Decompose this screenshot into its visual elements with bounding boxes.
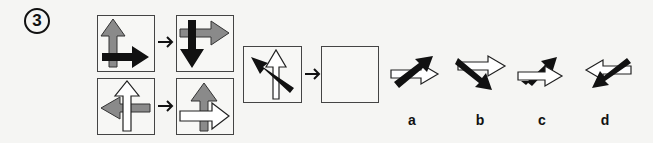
example-1-after-box [176,15,234,72]
option-d-figure[interactable] [578,52,636,94]
option-c-arrows-icon [515,52,573,94]
problem-given-box [243,46,302,103]
option-d-arrows-icon [578,52,636,94]
transform-arrow-icon [157,100,174,112]
option-b-arrows-icon [452,52,510,94]
option-c-figure[interactable] [515,52,573,94]
option-a-arrows-icon [388,52,446,94]
arrows-right-gray-down-black-icon [177,16,232,70]
option-c-label[interactable]: c [532,112,552,128]
example-1-before-box [97,15,155,72]
option-a-label[interactable]: a [402,112,422,128]
option-b-figure[interactable] [452,52,510,94]
transform-arrow-icon [157,36,174,48]
option-b-label[interactable]: b [470,112,490,128]
example-2-before-box [97,78,155,135]
example-2-after-box [176,78,234,135]
question-number: 3 [24,8,50,34]
transform-arrow-icon [304,68,321,80]
arrows-left-gray-up-white-icon [98,79,153,133]
option-a-figure[interactable] [388,52,446,94]
option-d-label[interactable]: d [595,112,615,128]
answer-box[interactable] [321,46,379,103]
question-number-text: 3 [32,11,41,31]
arrows-up-gray-right-black-icon [98,16,153,70]
arrows-up-white-upleft-black-icon [244,47,300,101]
arrows-up-gray-right-white-icon [177,79,232,133]
